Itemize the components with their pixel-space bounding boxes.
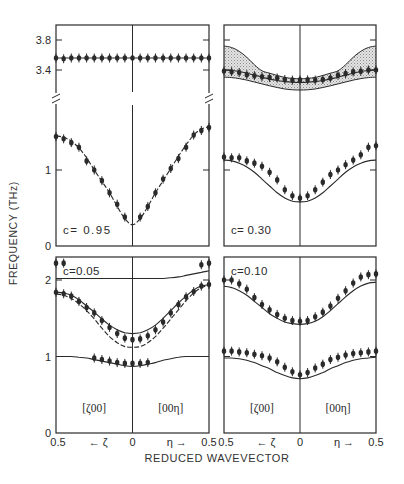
data-point bbox=[252, 295, 256, 301]
data-point bbox=[77, 55, 81, 61]
x-tick-label: ← ζ bbox=[257, 436, 276, 448]
data-point bbox=[192, 55, 196, 61]
y-tick-label: 1 bbox=[45, 164, 51, 176]
data-point bbox=[237, 349, 241, 355]
data-point bbox=[146, 204, 150, 210]
data-point bbox=[100, 178, 104, 184]
data-point bbox=[305, 370, 309, 376]
data-point bbox=[115, 201, 119, 207]
data-point bbox=[115, 331, 119, 337]
data-point bbox=[290, 318, 294, 324]
y-tick-label: 2 bbox=[45, 274, 51, 286]
y-tick-label: 1 bbox=[45, 351, 51, 363]
data-point bbox=[153, 327, 157, 333]
data-point bbox=[100, 357, 104, 363]
data-point bbox=[237, 155, 241, 161]
data-point bbox=[207, 55, 211, 61]
data-point bbox=[343, 71, 347, 77]
data-point bbox=[336, 167, 340, 173]
direction-label-zeta: [ζ00] bbox=[250, 402, 274, 415]
data-point bbox=[283, 187, 287, 193]
data-point bbox=[298, 195, 302, 201]
data-point bbox=[176, 302, 180, 308]
data-point bbox=[100, 318, 104, 324]
data-point bbox=[260, 163, 264, 169]
data-point bbox=[100, 55, 104, 61]
data-point bbox=[229, 277, 233, 283]
data-point bbox=[321, 309, 325, 315]
data-point bbox=[176, 156, 180, 162]
data-point bbox=[69, 140, 73, 146]
data-point bbox=[184, 144, 188, 150]
data-point bbox=[275, 359, 279, 365]
data-point bbox=[267, 355, 271, 361]
data-point bbox=[229, 69, 233, 75]
data-point bbox=[298, 372, 302, 378]
data-point bbox=[115, 55, 119, 61]
panel-c095: 013.43.8c= 0.95 bbox=[36, 25, 213, 252]
data-point bbox=[146, 360, 150, 366]
data-point bbox=[305, 318, 309, 324]
data-point bbox=[77, 144, 81, 150]
data-point bbox=[130, 55, 134, 61]
data-point bbox=[61, 291, 65, 297]
data-point bbox=[192, 132, 196, 138]
data-point bbox=[123, 361, 127, 367]
data-point bbox=[199, 55, 203, 61]
data-point bbox=[328, 303, 332, 309]
data-point bbox=[336, 72, 340, 78]
data-point bbox=[153, 55, 157, 61]
data-point bbox=[245, 72, 249, 78]
data-point bbox=[267, 169, 271, 175]
dispersion-figure: 013.43.8c= 0.95c= 0.30012c=0.05[ζ00][00η… bbox=[0, 0, 404, 484]
data-point bbox=[192, 289, 196, 295]
data-point bbox=[146, 333, 150, 339]
data-point bbox=[321, 179, 325, 185]
data-point bbox=[222, 68, 226, 74]
x-tick-label: η → bbox=[167, 436, 187, 448]
data-point bbox=[290, 369, 294, 375]
data-point bbox=[290, 193, 294, 199]
data-point bbox=[199, 128, 203, 134]
data-point bbox=[252, 160, 256, 166]
data-point bbox=[69, 293, 73, 299]
data-point bbox=[328, 172, 332, 178]
data-point bbox=[245, 286, 249, 292]
data-point bbox=[374, 271, 378, 277]
data-point bbox=[260, 353, 264, 359]
data-point bbox=[252, 73, 256, 79]
data-point bbox=[61, 56, 65, 62]
data-point bbox=[374, 67, 378, 73]
data-point bbox=[374, 348, 378, 354]
data-point bbox=[245, 158, 249, 164]
data-point bbox=[84, 158, 88, 164]
data-point bbox=[359, 350, 363, 356]
data-point bbox=[146, 55, 150, 61]
data-point bbox=[138, 55, 142, 61]
data-point bbox=[275, 177, 279, 183]
data-point bbox=[275, 75, 279, 81]
x-tick-label: ← ζ bbox=[89, 436, 108, 448]
data-point bbox=[84, 305, 88, 311]
data-point bbox=[169, 55, 173, 61]
data-point bbox=[328, 357, 332, 363]
data-point bbox=[313, 365, 317, 371]
data-point bbox=[374, 143, 378, 149]
x-tick-label: 0 bbox=[129, 436, 135, 448]
data-point bbox=[161, 55, 165, 61]
data-point bbox=[321, 361, 325, 367]
data-point bbox=[138, 361, 142, 367]
data-point bbox=[107, 55, 111, 61]
y-tick-label: 3.4 bbox=[36, 64, 51, 76]
data-point bbox=[61, 136, 65, 142]
data-point bbox=[359, 152, 363, 158]
direction-label-eta: [00η] bbox=[325, 402, 350, 415]
data-point bbox=[123, 214, 127, 220]
concentration-label: c= 0.95 bbox=[63, 224, 112, 236]
data-point bbox=[359, 68, 363, 74]
data-point bbox=[92, 310, 96, 316]
data-point bbox=[351, 69, 355, 75]
data-point bbox=[107, 190, 111, 196]
data-point bbox=[366, 67, 370, 73]
data-point bbox=[107, 358, 111, 364]
